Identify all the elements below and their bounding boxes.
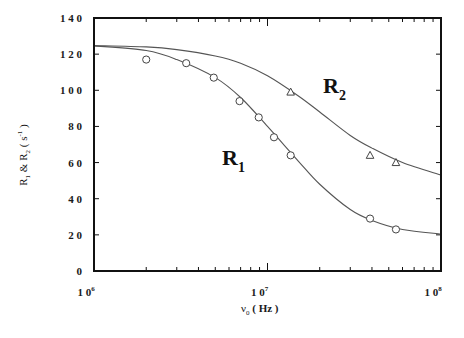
y-tick-label: 1 4 0 [60,12,83,24]
x-tick-label: 1 08 [424,285,442,298]
r1-data-point [183,60,190,67]
x-tick-label: 1 07 [251,285,269,298]
r2-fit-curve [94,45,441,175]
y-axis-ticks: 02 04 06 08 01 0 01 2 01 4 0 [60,12,441,277]
y-title-unit: ( s [17,137,30,150]
y-tick-label: 6 0 [68,157,82,169]
r1-label: R1 [222,145,245,175]
y-title-amp: & R [17,153,29,175]
r1-data-point [255,114,262,121]
y-tick-label: 2 0 [68,229,82,241]
r1-data-point [287,152,294,159]
r1-data-point [270,134,277,141]
y-tick-label: 8 0 [68,120,82,132]
r1-data-point [143,56,150,63]
r1-data-point [366,215,373,222]
r2-label-main: R [323,73,340,98]
x-tick-label: 1 06 [77,285,95,298]
y-tick-label: 1 0 0 [60,84,83,96]
r1-data-point [236,98,243,105]
y-tick-label: 0 [77,265,83,277]
x-axis-ticks: 1 061 071 08 [77,18,442,298]
y-tick-label: 4 0 [68,193,82,205]
r2-data-point [366,151,374,158]
r1-fit-curve [94,46,441,234]
r1-label-main: R [222,145,239,170]
data-markers [143,56,400,233]
fit-curves [94,45,441,233]
x-title-unit: ( Hz ) [249,302,278,315]
y-title-close: ) [17,124,30,131]
r2-label: R2 [323,73,346,103]
x-axis-title: ν0 ( Hz ) [241,302,279,317]
r1-data-point [210,74,217,81]
r1-data-point [392,226,399,233]
r2-data-point [392,159,400,166]
y-tick-label: 1 2 0 [60,48,83,60]
y-axis-title: R1 & R2 ( s-1 ) [16,124,32,186]
r1-label-sub: 1 [238,160,245,175]
chart: 02 04 06 08 01 0 01 2 01 4 0 1 061 071 0… [0,0,464,338]
r2-label-sub: 2 [339,88,346,103]
